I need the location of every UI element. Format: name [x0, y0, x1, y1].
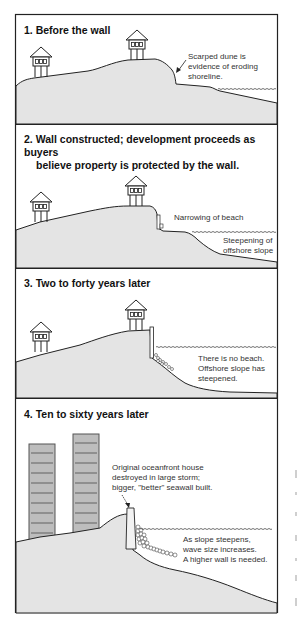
house-icon [126, 30, 148, 60]
caption-line: Steepening of [223, 236, 273, 246]
caption-line: Scarped dune is [188, 52, 258, 62]
caption-line: wave size increases. [183, 545, 268, 555]
high-rise-icon [73, 434, 99, 534]
panel-2-caption-beach: Narrowing of beach [174, 213, 243, 223]
caption-line: bigger, "better" seawall built. [112, 483, 212, 493]
house-icon [30, 192, 52, 222]
caption-line: A higher wall is needed. [183, 555, 268, 565]
panel-4-caption-house: Original oceanfront house destroyed in l… [112, 463, 212, 493]
caption-line: As slope steepens, [183, 535, 268, 545]
water-surface [140, 529, 272, 530]
seawall [150, 327, 154, 358]
panel-4-title: 4. Ten to sixty years later [24, 408, 149, 421]
water-surface [192, 232, 276, 233]
caption-line: shoreline. [188, 72, 258, 82]
caption-line: There is no beach. [198, 354, 265, 364]
panel-4-caption-slope: As slope steepens, wave size increases. … [183, 535, 268, 565]
panel-1-caption: Scarped dune is evidence of eroding shor… [188, 52, 258, 82]
caption-line: offshore slope [223, 246, 273, 256]
panel-3-caption: There is no beach. Offshore slope has st… [198, 354, 265, 384]
title-line: 2. Wall constructed; development proceed… [24, 133, 274, 159]
panel-2-title: 2. Wall constructed; development proceed… [24, 133, 274, 172]
seawall [157, 215, 160, 229]
panel-4 [16, 434, 277, 613]
title-line: believe property is protected by the wal… [24, 159, 274, 172]
arrowhead-icon [125, 503, 130, 508]
caption-line: evidence of eroding [188, 62, 258, 72]
water-surface [156, 347, 276, 348]
house-icon [125, 300, 147, 330]
panel-2-caption-slope: Steepening of offshore slope [223, 236, 273, 256]
house-icon [30, 47, 52, 77]
caption-line: destroyed in large storm; [112, 473, 212, 483]
house-icon [125, 176, 147, 206]
house-icon [30, 322, 52, 352]
caption-line: Original oceanfront house [112, 463, 212, 473]
water-surface [218, 89, 276, 90]
panel-3-title: 3. Two to forty years later [24, 277, 150, 290]
riprap [160, 224, 163, 228]
seawall-diagram [0, 0, 297, 620]
seawall [126, 508, 136, 549]
caption-line: Offshore slope has [198, 364, 265, 374]
panel-1-title: 1. Before the wall [24, 24, 110, 37]
scan-artifacts [295, 470, 297, 606]
caption-line: steepened. [198, 374, 265, 384]
high-rise-icon [29, 444, 55, 540]
